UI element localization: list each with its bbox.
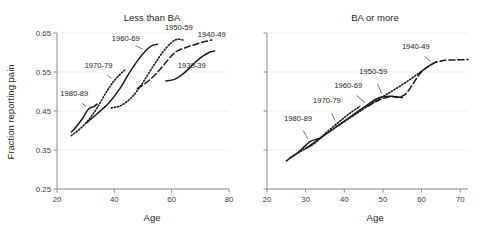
annotation-leader-line bbox=[303, 131, 308, 139]
series-annotation: 1970-79 bbox=[313, 96, 341, 105]
x-tick-label: 20 bbox=[53, 195, 62, 204]
annotation-leader-line bbox=[82, 103, 86, 106]
y-tick-label: 0.25 bbox=[36, 185, 52, 194]
series-annotation: 1940-49 bbox=[198, 30, 226, 39]
panel-title-right: BA or more bbox=[351, 12, 399, 23]
series-line-1960-69 bbox=[86, 44, 158, 123]
x-tick-labels-right: 203040506070 bbox=[263, 195, 466, 204]
y-tick-label: 0.35 bbox=[36, 146, 52, 155]
annotation-leader-line bbox=[332, 113, 336, 121]
annotation-leader-line bbox=[107, 75, 111, 78]
series-annotation: 1960-69 bbox=[334, 81, 362, 90]
series-annotation: 1950-59 bbox=[165, 23, 193, 32]
x-tick-label: 60 bbox=[167, 195, 176, 204]
y-tick-label: 0.55 bbox=[36, 68, 52, 77]
annotation-leader-line bbox=[357, 95, 365, 102]
annotation-leader-line bbox=[424, 56, 430, 61]
annotation-leader-line bbox=[378, 84, 382, 93]
y-axis-title: Fraction reporting pain bbox=[5, 64, 16, 159]
series-curves-left bbox=[71, 39, 214, 135]
series-annotation: 1960-69 bbox=[112, 34, 140, 43]
y-tick-label: 0.45 bbox=[36, 107, 52, 116]
x-tick-label: 80 bbox=[225, 195, 234, 204]
panel-less-than-ba: Less than BA 0.250.350.450.550.65 204060… bbox=[36, 12, 234, 223]
series-annotations-left: 1980-891970-791960-691950-591940-491930-… bbox=[60, 23, 225, 107]
series-annotation: 1950-59 bbox=[359, 67, 387, 76]
x-tick-label: 60 bbox=[417, 195, 426, 204]
panel-title-left: Less than BA bbox=[124, 12, 181, 23]
two-panel-line-chart: Fraction reporting pain Less than BA 0.2… bbox=[0, 0, 480, 230]
panel-ba-or-more: BA or more 203040506070 1980-891970-7919… bbox=[263, 12, 468, 223]
x-tick-label: 70 bbox=[456, 195, 465, 204]
y-tick-label: 0.65 bbox=[36, 29, 52, 38]
axis-ticks-right bbox=[264, 33, 461, 193]
x-tick-labels-left: 20406080 bbox=[53, 195, 234, 204]
x-tick-label: 40 bbox=[110, 195, 119, 204]
x-tick-label: 50 bbox=[379, 195, 388, 204]
series-line-1970-79 bbox=[71, 70, 125, 136]
x-tick-label: 20 bbox=[263, 195, 272, 204]
figure-container: Fraction reporting pain Less than BA 0.2… bbox=[0, 0, 480, 230]
annotation-leader-line bbox=[136, 46, 143, 49]
gridlines-right bbox=[267, 33, 468, 189]
x-tick-label: 30 bbox=[301, 195, 310, 204]
x-tick-label: 40 bbox=[340, 195, 349, 204]
x-axis-title-left: Age bbox=[144, 212, 161, 223]
series-annotation: 1970-79 bbox=[85, 61, 113, 70]
series-annotation: 1930-39 bbox=[178, 61, 206, 70]
series-annotation: 1940-49 bbox=[402, 42, 430, 51]
x-axis-title-right: Age bbox=[367, 212, 384, 223]
series-annotation: 1980-89 bbox=[60, 89, 88, 98]
y-tick-labels-left: 0.250.350.450.550.65 bbox=[36, 29, 52, 194]
series-annotation: 1980-89 bbox=[284, 114, 312, 123]
